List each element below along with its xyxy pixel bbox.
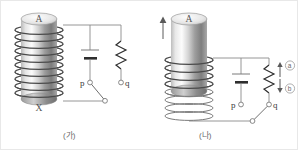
terminal-p-label-b: p — [231, 100, 236, 110]
figure-canvas: p q A — [0, 0, 298, 150]
switch-lever-a[interactable] — [92, 84, 105, 99]
terminal-q-b[interactable] — [267, 102, 272, 107]
switch-pivot-a[interactable] — [103, 98, 108, 103]
bar-magnet-b: A — [171, 13, 207, 97]
bar-magnet-a: A — [21, 13, 57, 105]
panel-b-caption: (나) — [199, 131, 212, 140]
switch-lever-b[interactable] — [254, 106, 267, 119]
current-arrow-down-b — [277, 79, 282, 93]
physics-diagram-svg: p q A — [1, 1, 298, 150]
terminal-q-a[interactable] — [119, 80, 124, 85]
switch-pivot-b[interactable] — [250, 119, 255, 124]
terminal-p-b[interactable] — [239, 102, 244, 107]
terminal-p-label-a: p — [80, 78, 85, 88]
resistor-a — [116, 41, 126, 69]
current-label-up-b: a — [288, 62, 292, 69]
current-label-down-b: b — [288, 85, 292, 92]
battery-a — [81, 50, 99, 60]
magnet-top-label-b: A — [186, 14, 193, 24]
terminal-q-label-a: q — [125, 78, 130, 88]
resistor-b — [264, 65, 274, 93]
panel-b: a b p q — [160, 13, 295, 140]
terminal-q-label-b: q — [273, 100, 278, 110]
magnet-bottom-label-a: X — [36, 103, 43, 113]
battery-b — [232, 74, 250, 84]
current-arrow-up-b — [277, 62, 282, 77]
magnet-top-label-a: A — [36, 14, 43, 24]
panel-a-caption: (가) — [63, 131, 76, 140]
panel-a: p q A — [15, 13, 130, 140]
motion-arrow-up-b — [160, 17, 167, 40]
